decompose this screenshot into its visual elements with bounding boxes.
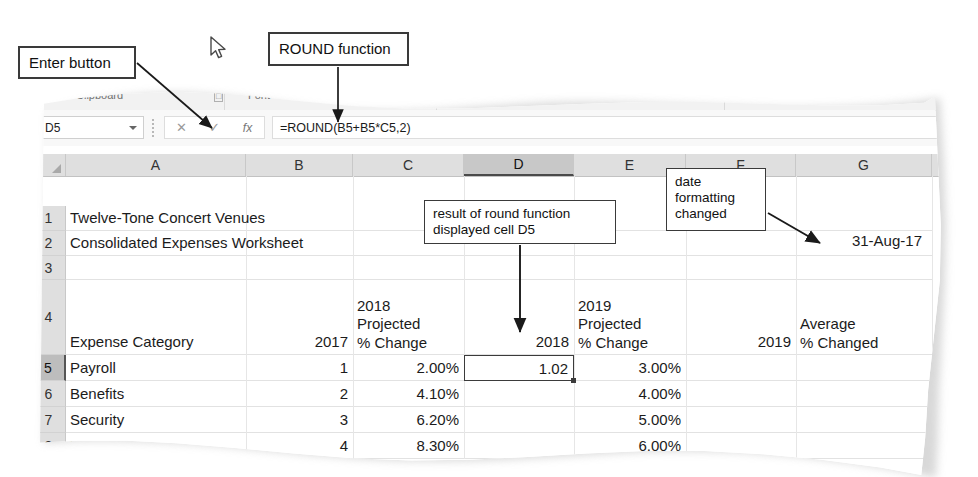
ribbon-group-alignment: Alignment [616, 89, 665, 101]
cell-text-line: Rent [70, 437, 102, 455]
cell-text-line: % Change [578, 334, 648, 352]
row-header-1[interactable]: 1 [32, 206, 66, 231]
cell-text-line: Twelve-Tone Concert Venues [70, 209, 265, 227]
row-band [66, 256, 932, 280]
cell-A1[interactable]: Twelve-Tone Concert Venues [70, 206, 460, 231]
select-all-corner[interactable] [32, 154, 66, 176]
cell-text-line: 3 [340, 411, 348, 429]
column-header-C[interactable]: C [353, 154, 464, 176]
cell-E5[interactable]: 3.00% [574, 355, 681, 381]
cell-text-line: 2019 [578, 297, 611, 315]
cell-text-line: Projected [578, 315, 641, 333]
name-box-value: D5 [45, 121, 60, 135]
cell-text-line: % Changed [800, 334, 878, 352]
cell-text-line: Consolidated Expenses Worksheet [70, 234, 303, 252]
cell-B5[interactable]: 1 [246, 355, 348, 381]
cell-text-line: 4.00% [638, 385, 681, 403]
cell-text-line: 2 [340, 385, 348, 403]
cell-text-line: Average [800, 315, 856, 333]
cell-A6[interactable]: Benefits [70, 381, 242, 407]
cell-B6[interactable]: 2 [246, 381, 348, 407]
row-header-4[interactable]: 4 [32, 280, 66, 355]
cell-A2[interactable]: Consolidated Expenses Worksheet [70, 231, 460, 256]
cell-text-line: 8.30% [416, 437, 459, 455]
cell-text-line: 2019 [758, 333, 791, 351]
excel-window-figure: Clipboard □ Font Alignment □ Number D5 ✕ [0, 84, 978, 477]
cell-text-line: 1 [340, 359, 348, 377]
cell-text-line: 5.00% [638, 411, 681, 429]
dialog-launcher-icon-2[interactable]: □ [712, 91, 721, 102]
cell-E7[interactable]: 5.00% [574, 407, 681, 433]
cell-A4[interactable]: Expense Category [70, 280, 242, 355]
cell-E8[interactable]: 6.00% [574, 433, 681, 459]
formula-bar-grip[interactable] [152, 119, 156, 137]
cell-E6[interactable]: 4.00% [574, 381, 681, 407]
cell-C4[interactable]: 2018Projected% Change [357, 280, 460, 355]
callout-result-of-round-function: result of round function displayed cell … [424, 200, 616, 244]
ribbon-group-labels-strip: Clipboard □ Font Alignment □ Number [0, 84, 978, 111]
cell-B8[interactable]: 4 [246, 433, 348, 459]
row-header-3[interactable]: 3 [32, 256, 66, 280]
cell-text-line: 4.10% [416, 385, 459, 403]
cell-text-line: Projected [357, 315, 420, 333]
row-header-8[interactable]: 8 [32, 433, 66, 459]
gridline-vertical [796, 176, 797, 459]
column-header-A[interactable]: A [66, 154, 246, 176]
callout-enter-button: Enter button [18, 46, 136, 79]
mouse-pointer-icon [209, 36, 229, 62]
row-header-2[interactable]: 2 [32, 231, 66, 256]
active-cell-D5[interactable]: 1.02 [464, 355, 574, 381]
ribbon-group-number: Number [740, 89, 779, 101]
cell-text-line: Expense Category [70, 333, 193, 351]
ribbon-group-clipboard: Clipboard [76, 89, 123, 101]
callout-round-function: ROUND function [268, 32, 409, 66]
cell-text-line: 2018 [536, 333, 569, 351]
name-box[interactable]: D5 [38, 116, 144, 139]
cell-text-line: 2017 [315, 333, 348, 351]
cell-B7[interactable]: 3 [246, 407, 348, 433]
cancel-icon[interactable]: ✕ [165, 117, 198, 138]
cell-B4[interactable]: 2017 [246, 280, 348, 355]
cell-text-line: 3.00% [638, 359, 681, 377]
gridline-vertical [932, 176, 933, 459]
cell-C6[interactable]: 4.10% [353, 381, 459, 407]
insert-function-icon[interactable]: fx [231, 117, 264, 138]
cell-text-line: Payroll [70, 359, 116, 377]
cell-G4[interactable]: Average% Changed [800, 280, 928, 355]
cell-C7[interactable]: 6.20% [353, 407, 459, 433]
cell-text-line: % Change [357, 334, 427, 352]
cell-C5[interactable]: 2.00% [353, 355, 459, 381]
column-header-G[interactable]: G [796, 154, 932, 176]
cell-text-line: Security [70, 411, 124, 429]
cell-text-line: 6.20% [416, 411, 459, 429]
formula-bar-row: D5 ✕ ✓ fx =ROUND(B5+B5*C5,2) [0, 110, 978, 146]
cell-A7[interactable]: Security [70, 407, 242, 433]
row-header-5[interactable]: 5 [32, 355, 66, 381]
column-header-B[interactable]: B [246, 154, 353, 176]
row-header-7[interactable]: 7 [32, 407, 66, 433]
cell-A8[interactable]: Rent [70, 433, 242, 459]
cell-text-line: 6.00% [638, 437, 681, 455]
formula-bar-buttons: ✕ ✓ fx [164, 116, 265, 139]
column-header-D[interactable]: D [464, 154, 574, 176]
cell-text-line: 4 [340, 437, 348, 455]
cell-A5[interactable]: Payroll [70, 355, 242, 381]
chevron-down-icon[interactable] [129, 126, 137, 130]
cell-text-line: Benefits [70, 385, 124, 403]
cell-E4[interactable]: 2019Projected% Change [578, 280, 682, 355]
row-header-6[interactable]: 6 [32, 381, 66, 407]
cell-G3-date[interactable]: 31-Aug-17 [796, 226, 927, 250]
cell-F4[interactable]: 2019 [686, 280, 791, 355]
enter-icon[interactable]: ✓ [198, 117, 231, 138]
cell-D4[interactable]: 2018 [464, 280, 569, 355]
cell-text-line: 2018 [357, 297, 390, 315]
callout-date-formatting-changed: date formatting changed [666, 168, 766, 231]
formula-input[interactable]: =ROUND(B5+B5*C5,2) [272, 116, 962, 139]
worksheet-grid: ABCDEFG 12345678 Twelve-Tone Concert Ven… [0, 146, 978, 477]
fill-handle[interactable] [571, 378, 576, 383]
select-all-triangle-icon [52, 164, 61, 173]
cell-C8[interactable]: 8.30% [353, 433, 459, 459]
dialog-launcher-icon[interactable]: □ [214, 91, 223, 102]
cell-text-line: 2.00% [416, 359, 459, 377]
ribbon-group-font: Font [248, 89, 270, 101]
